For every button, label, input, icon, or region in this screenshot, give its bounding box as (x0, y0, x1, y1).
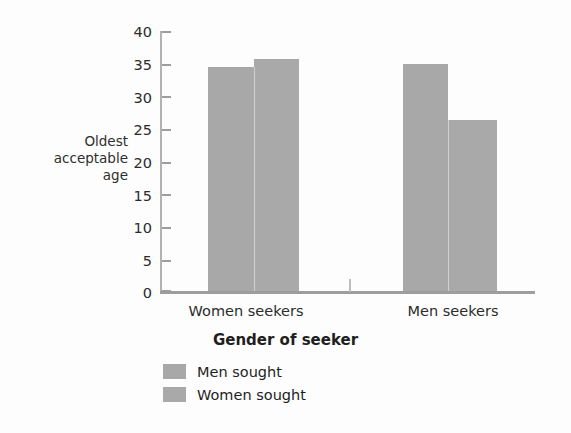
bar-separator-group-2 (448, 120, 449, 291)
x-axis-line (160, 291, 535, 294)
bar-women-seekers-men-sought[interactable] (208, 67, 254, 291)
y-axis-label: Oldest acceptable age (6, 133, 128, 184)
y-tick-label-40: 40 (118, 25, 152, 40)
bar-men-seekers-women-sought[interactable] (448, 120, 497, 291)
legend-swatch-men-sought (163, 364, 186, 379)
chart-figure: Oldest acceptable age 40 35 30 25 20 15 … (0, 0, 571, 433)
legend-label-men-sought: Men sought (197, 364, 282, 380)
x-tick-label-women-seekers: Women seekers (186, 303, 306, 319)
plot-area (160, 31, 535, 293)
bar-women-seekers-women-sought[interactable] (254, 59, 299, 291)
y-tick-label-5: 5 (118, 254, 152, 269)
y-axis-tick-40 (162, 31, 171, 33)
y-axis-tick-30 (162, 96, 171, 98)
legend-label-women-sought: Women sought (197, 387, 306, 403)
y-axis-tick-35 (162, 64, 171, 66)
legend-swatch-women-sought (163, 387, 186, 402)
y-axis-tick-10 (162, 227, 171, 229)
y-axis-tick-0 (162, 290, 171, 292)
y-tick-label-30: 30 (118, 91, 152, 106)
legend-item-men-sought[interactable]: Men sought (163, 361, 306, 382)
y-tick-label-15: 15 (118, 189, 152, 204)
bar-men-seekers-men-sought[interactable] (403, 64, 448, 292)
y-axis-tick-5 (162, 260, 171, 262)
y-tick-label-0: 0 (118, 286, 152, 301)
y-axis-label-line-3: age (6, 167, 128, 184)
y-axis-tick-25 (162, 129, 171, 131)
x-axis-mid-tick (349, 279, 351, 292)
y-axis-label-line-2: acceptable (6, 150, 128, 167)
y-axis-tick-15 (162, 194, 171, 196)
chart-title-remnant (150, 0, 450, 5)
y-tick-label-10: 10 (118, 221, 152, 236)
y-tick-label-35: 35 (118, 58, 152, 73)
x-axis-label: Gender of seeker (0, 331, 571, 349)
legend: Men sought Women sought (163, 361, 306, 407)
y-axis-tick-20 (162, 162, 171, 164)
legend-item-women-sought[interactable]: Women sought (163, 384, 306, 405)
y-axis-label-line-1: Oldest (6, 133, 128, 150)
bar-separator-group-1 (254, 67, 255, 291)
y-tick-label-20: 20 (118, 156, 152, 171)
y-tick-label-25: 25 (118, 123, 152, 138)
x-tick-label-men-seekers: Men seekers (398, 303, 508, 319)
